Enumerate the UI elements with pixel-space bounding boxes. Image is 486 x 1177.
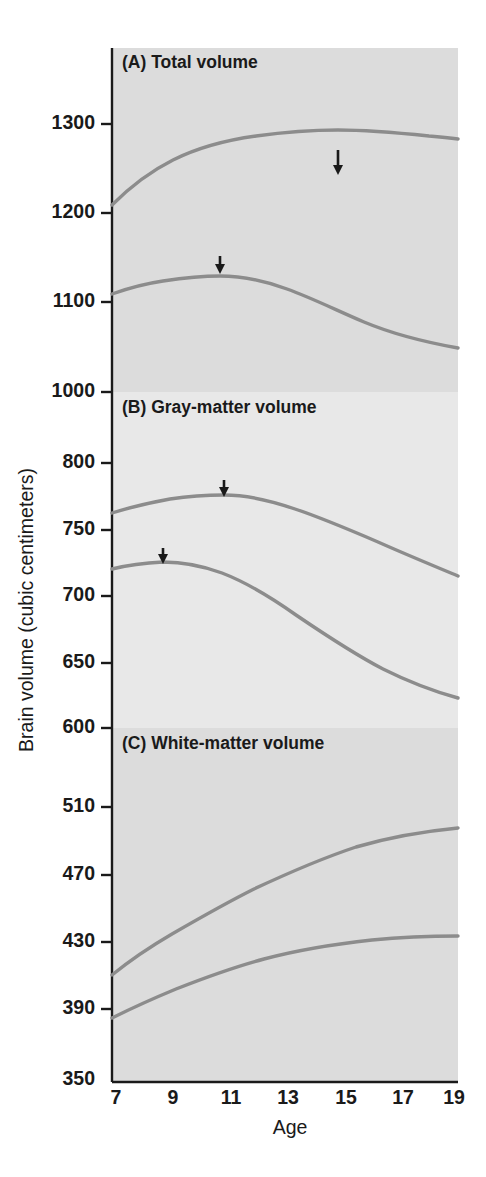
- panel-title-b: (B) Gray-matter volume: [122, 397, 317, 417]
- ytick-label-a-0: 1300: [52, 111, 96, 133]
- xtick-label-3: 13: [277, 1086, 299, 1108]
- panel-b-y-ticks: [101, 463, 112, 728]
- x-axis-title: Age: [273, 1116, 308, 1138]
- y-axis-title: Brain volume (cubic centimeters): [15, 468, 37, 752]
- ytick-label-a-1: 1200: [52, 200, 96, 222]
- ytick-label-c-3: 390: [62, 996, 95, 1018]
- panel-c-plot-background: [112, 728, 458, 1082]
- ytick-label-c-0: 510: [62, 794, 95, 816]
- ytick-label-b-0: 800: [62, 450, 95, 472]
- ytick-label-b-2: 700: [62, 583, 95, 605]
- ytick-label-b-3: 650: [62, 650, 95, 672]
- ytick-label-b-1: 750: [62, 517, 95, 539]
- xtick-label-6: 19: [443, 1086, 465, 1108]
- ytick-label-a-2: 1100: [53, 289, 95, 311]
- ytick-label-c-2: 430: [62, 929, 95, 951]
- ytick-label-c-1: 470: [62, 862, 95, 884]
- xtick-label-0: 7: [111, 1086, 122, 1108]
- xtick-label-5: 17: [392, 1086, 414, 1108]
- xtick-label-1: 9: [168, 1086, 179, 1108]
- panel-title-c: (C) White-matter volume: [122, 733, 325, 753]
- panel-c-y-ticks: [101, 807, 112, 1009]
- figure-container: 1300 1200 1100 1000 800 750 700 650 600 …: [0, 0, 486, 1177]
- xtick-label-4: 15: [335, 1086, 357, 1108]
- ytick-label-c-4: 350: [62, 1067, 95, 1089]
- ytick-label-a-3: 1000: [52, 379, 96, 401]
- brain-volume-chart: 1300 1200 1100 1000 800 750 700 650 600 …: [0, 0, 486, 1177]
- panel-a-plot-background: [112, 48, 458, 392]
- panel-a-y-ticks: [101, 124, 112, 392]
- xtick-label-2: 11: [221, 1086, 242, 1108]
- panel-title-a: (A) Total volume: [122, 52, 258, 72]
- ytick-label-b-4: 600: [62, 715, 95, 737]
